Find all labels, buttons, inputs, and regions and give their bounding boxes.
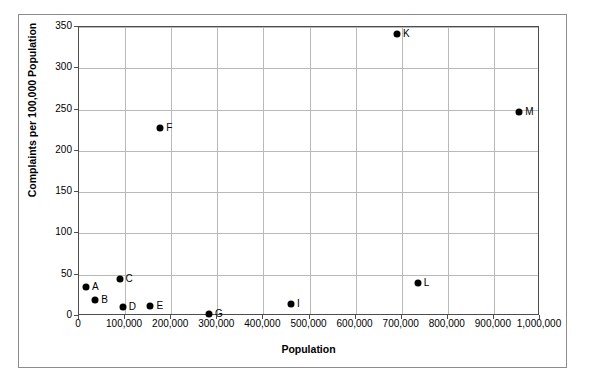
plot-area: ABCDEFGIKLM: [78, 26, 539, 315]
y-tick-label-0: 0: [32, 310, 72, 320]
y-tickmark-300: [74, 67, 78, 68]
x-tick-label-400000: 400,000: [244, 319, 280, 329]
data-point-B: [92, 297, 99, 304]
y-tick-label-250: 250: [32, 104, 72, 114]
gridline-x-500000: [310, 27, 311, 314]
x-tick-label-700000: 700,000: [383, 319, 419, 329]
data-point-M: [516, 109, 523, 116]
x-tick-label-600000: 600,000: [337, 319, 373, 329]
gridline-x-100000: [125, 27, 126, 314]
y-tick-label-200: 200: [32, 145, 72, 155]
y-tick-label-100: 100: [32, 227, 72, 237]
data-point-label-C: C: [126, 274, 133, 284]
y-tick-label-300: 300: [32, 62, 72, 72]
gridline-y-300: [79, 68, 538, 69]
data-point-label-E: E: [156, 301, 163, 311]
gridline-x-800000: [448, 27, 449, 314]
y-tick-label-50: 50: [32, 269, 72, 279]
x-tick-label-100000: 100,000: [106, 319, 142, 329]
data-point-G: [206, 311, 213, 318]
gridline-x-700000: [402, 27, 403, 314]
y-tickmark-100: [74, 232, 78, 233]
data-point-E: [147, 303, 154, 310]
gridline-y-250: [79, 110, 538, 111]
data-point-C: [116, 275, 123, 282]
x-tick-label-0: 0: [75, 319, 81, 329]
data-point-label-F: F: [166, 123, 172, 133]
y-tickmark-50: [74, 274, 78, 275]
data-point-F: [157, 124, 164, 131]
data-point-L: [414, 279, 421, 286]
scatter-chart: Complaints per 100,000 Population ABCDEF…: [0, 0, 592, 386]
gridline-x-400000: [263, 27, 264, 314]
gridline-y-100: [79, 233, 538, 234]
x-tick-label-900000: 900,000: [475, 319, 511, 329]
data-point-label-K: K: [403, 29, 410, 39]
x-tick-label-300000: 300,000: [198, 319, 234, 329]
data-point-D: [119, 303, 126, 310]
data-point-label-L: L: [424, 278, 430, 288]
data-point-A: [82, 284, 89, 291]
gridline-y-150: [79, 192, 538, 193]
y-tick-label-350: 350: [32, 21, 72, 31]
y-tickmark-200: [74, 150, 78, 151]
x-axis-title: Population: [78, 343, 539, 355]
x-tick-label-500000: 500,000: [290, 319, 326, 329]
gridline-x-600000: [356, 27, 357, 314]
gridline-x-900000: [494, 27, 495, 314]
data-point-label-D: D: [129, 302, 136, 312]
data-point-label-B: B: [101, 295, 108, 305]
data-point-I: [288, 301, 295, 308]
gridline-x-200000: [171, 27, 172, 314]
x-tick-label-200000: 200,000: [152, 319, 188, 329]
y-tickmark-150: [74, 191, 78, 192]
gridline-y-350: [79, 27, 538, 28]
y-tickmark-250: [74, 109, 78, 110]
data-point-label-A: A: [92, 282, 99, 292]
y-tickmark-350: [74, 26, 78, 27]
data-point-K: [394, 31, 401, 38]
gridline-y-200: [79, 151, 538, 152]
x-tick-label-1000000: 1,000,000: [517, 319, 562, 329]
y-tick-label-150: 150: [32, 186, 72, 196]
gridline-x-300000: [217, 27, 218, 314]
data-point-label-M: M: [525, 107, 533, 117]
data-point-label-I: I: [297, 299, 300, 309]
x-tick-label-800000: 800,000: [429, 319, 465, 329]
gridline-y-50: [79, 275, 538, 276]
